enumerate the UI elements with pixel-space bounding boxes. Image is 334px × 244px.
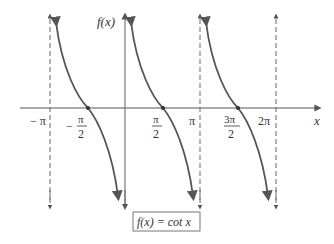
zero-half-pi — [161, 106, 165, 110]
tick-half-pi-num: π — [153, 113, 159, 125]
tick-half-pi-den: 2 — [153, 127, 159, 141]
x-axis-label: x — [313, 113, 320, 128]
tick-2pi: 2π — [258, 114, 270, 128]
cot-chart: f(x) x − π − π 2 π 2 π 3π 2 2π f(x) = co… — [0, 0, 334, 244]
zero-three-half-pi — [236, 106, 240, 110]
tick-neg-pi: − π — [30, 114, 46, 128]
zero-neg-half-pi — [86, 106, 90, 110]
tick-neg-half-pi-den: 2 — [78, 127, 84, 141]
tick-neg-half-pi-sign: − — [66, 119, 73, 133]
tick-three-half-pi-den: 2 — [228, 127, 234, 141]
y-axis-label: f(x) — [97, 14, 115, 29]
tick-pi: π — [189, 114, 195, 128]
tick-neg-half-pi-num: π — [78, 113, 84, 125]
caption: f(x) = cot x — [137, 215, 191, 229]
tick-three-half-pi-num: 3π — [224, 113, 236, 125]
